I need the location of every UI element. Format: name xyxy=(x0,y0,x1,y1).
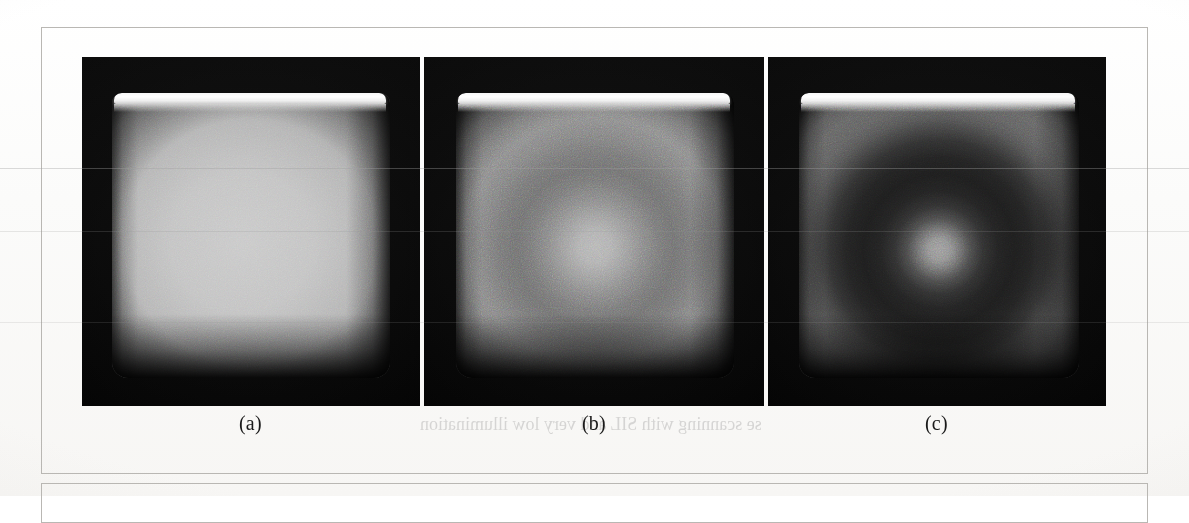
subfigure-caption-b: (b) xyxy=(582,412,606,435)
photo-panel-b xyxy=(424,57,764,406)
figure-panel-row xyxy=(82,57,1106,406)
subfigure-caption-a: (a) xyxy=(239,412,262,435)
sample-block-c xyxy=(799,93,1079,378)
sample-block-b xyxy=(456,93,734,378)
photo-panel-c xyxy=(768,57,1106,406)
photo-panel-a xyxy=(82,57,420,406)
sample-block-a xyxy=(112,93,390,378)
luminance-field-b xyxy=(456,93,734,378)
luminance-field-a xyxy=(112,93,390,378)
next-figure-frame xyxy=(41,483,1148,523)
subfigure-caption-c: (c) xyxy=(925,412,948,435)
luminance-field-c xyxy=(799,93,1079,378)
